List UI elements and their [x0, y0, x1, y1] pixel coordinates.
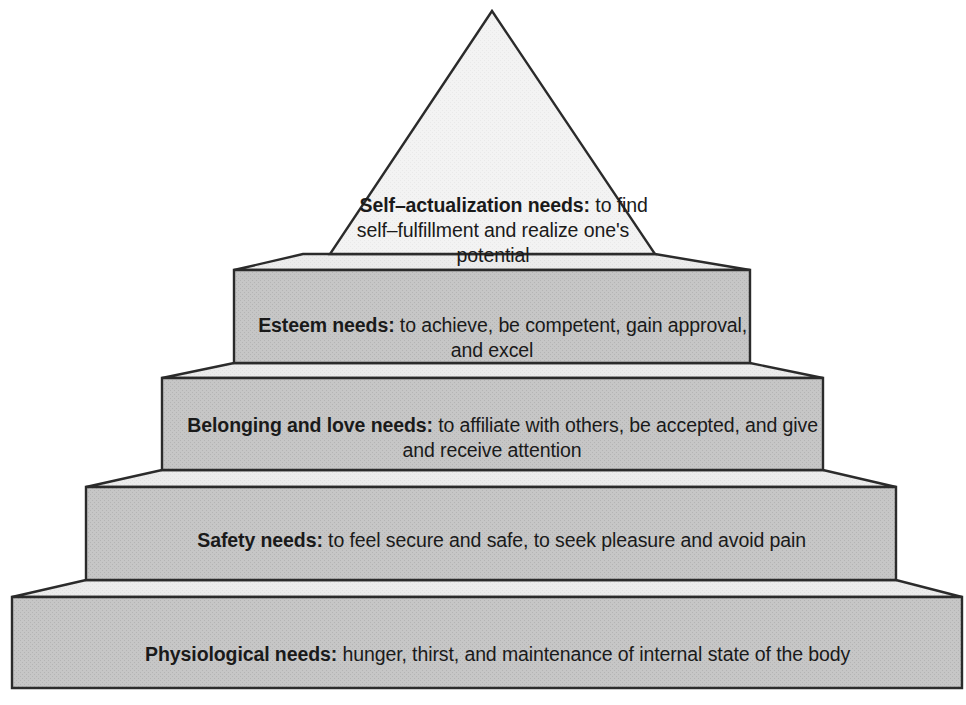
tier-physiological: [12, 580, 962, 688]
tier-esteem: [234, 254, 750, 363]
pyramid-graphic: [0, 0, 966, 705]
tier-safety-front-face: [86, 487, 896, 580]
maslow-pyramid-diagram: Self–actualization needs: to find self–f…: [0, 0, 966, 705]
tier-esteem-top-face: [234, 254, 750, 270]
tier-safety: [86, 470, 896, 580]
tier-self-actualization-face: [330, 11, 655, 254]
tier-esteem-front-face: [234, 270, 750, 363]
tier-belonging-and-love-front-face: [162, 378, 823, 470]
tier-physiological-top-face: [12, 580, 962, 597]
tier-physiological-front-face: [12, 597, 962, 688]
tier-safety-top-face: [86, 470, 896, 487]
tier-self-actualization: [330, 11, 655, 254]
tier-belonging-and-love-top-face: [162, 363, 823, 378]
tier-belonging-and-love: [162, 363, 823, 470]
